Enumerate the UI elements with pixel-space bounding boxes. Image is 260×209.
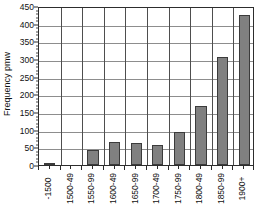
x-axis-minor-tick bbox=[200, 166, 201, 169]
x-axis-tick-label: 1900+ bbox=[232, 170, 254, 208]
x-axis-tick-label-text: 1600-49 bbox=[109, 173, 118, 204]
y-axis-tick-label: 150 bbox=[20, 109, 34, 118]
bar-chart: Frequency pmw 05010015020025030035040045… bbox=[0, 0, 260, 209]
x-axis-tick-label-text: -1500 bbox=[44, 178, 53, 200]
bar bbox=[195, 106, 206, 165]
x-axis-minor-tick bbox=[178, 166, 179, 169]
x-axis-tick-label: 1550-99 bbox=[81, 170, 103, 208]
x-axis-minor-tick bbox=[157, 166, 158, 169]
x-axis-minor-tick bbox=[49, 166, 50, 169]
x-axis-minor-tick bbox=[135, 166, 136, 169]
x-axis-tick-label: 1500-49 bbox=[60, 170, 82, 208]
y-axis-tick-label: 250 bbox=[20, 73, 34, 82]
x-axis-minor-tick bbox=[92, 166, 93, 169]
x-axis-minor-tick bbox=[243, 166, 244, 169]
x-axis-minor-tick bbox=[114, 166, 115, 169]
x-axis-tick-label: 1700-49 bbox=[146, 170, 168, 208]
bar bbox=[87, 150, 98, 165]
bar bbox=[131, 143, 142, 165]
y-axis-tick-label: 300 bbox=[20, 56, 34, 65]
y-axis-tick-labels: 050100150200250300350400450 bbox=[12, 7, 34, 166]
bar bbox=[239, 15, 250, 165]
y-axis-title-label: Frequency pmw bbox=[2, 52, 12, 116]
x-axis-tick-label-text: 1500-49 bbox=[66, 173, 75, 204]
bar bbox=[44, 163, 55, 165]
bar bbox=[109, 142, 120, 165]
x-axis-minor-tick bbox=[222, 166, 223, 169]
x-axis-tick-label-text: 1700-49 bbox=[152, 173, 161, 204]
x-axis-tick-label: 1600-49 bbox=[103, 170, 125, 208]
x-axis-tick-label: 1650-99 bbox=[124, 170, 146, 208]
x-axis-tick-label-text: 1850-99 bbox=[217, 173, 226, 204]
y-axis-tick-label: 100 bbox=[20, 126, 34, 135]
x-axis-tick-label-text: 1650-99 bbox=[131, 173, 140, 204]
bar bbox=[152, 145, 163, 165]
x-axis-tick-label-text: 1750-99 bbox=[174, 173, 183, 204]
x-axis-tick-label: 1750-99 bbox=[168, 170, 190, 208]
bar bbox=[217, 57, 228, 165]
x-axis-tick-label: 1850-99 bbox=[211, 170, 233, 208]
bar bbox=[174, 132, 185, 165]
x-axis-tick-label: 1800-49 bbox=[189, 170, 211, 208]
y-axis-tick-label: 400 bbox=[20, 20, 34, 29]
y-axis-tick-label: 50 bbox=[25, 144, 34, 153]
x-axis-tick-label-text: 1800-49 bbox=[195, 173, 204, 204]
y-axis-tick-label: 350 bbox=[20, 38, 34, 47]
y-axis-tick-label: 200 bbox=[20, 91, 34, 100]
x-axis-tick-label: -1500 bbox=[38, 170, 60, 208]
x-axis-tick-label-text: 1900+ bbox=[239, 177, 248, 201]
plot-area bbox=[38, 7, 254, 166]
x-axis-tick-labels: -15001500-491550-991600-491650-991700-49… bbox=[38, 170, 254, 209]
x-axis-tick-label-text: 1550-99 bbox=[87, 173, 96, 204]
y-axis-tick-label: 450 bbox=[20, 3, 34, 12]
bars-layer bbox=[39, 8, 253, 165]
x-axis-minor-tick bbox=[70, 166, 71, 169]
